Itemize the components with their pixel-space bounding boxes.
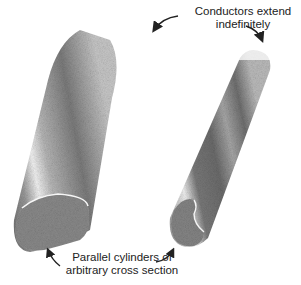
left-conductor — [14, 20, 130, 252]
annotation-bottom-line1: Parallel cylinders of — [52, 251, 192, 264]
conductors-diagram — [0, 0, 301, 285]
right-conductor — [170, 38, 280, 247]
annotation-parallel-cylinders: Parallel cylinders of arbitrary cross se… — [52, 251, 192, 277]
annotation-top-line1: Conductors extend — [184, 5, 301, 18]
annotation-top-line2: indefinitely — [184, 18, 301, 31]
annotation-conductors-extend: Conductors extend indefinitely — [184, 5, 301, 31]
arrow-to-left-top — [154, 16, 178, 30]
annotation-bottom-line2: arbitrary cross section — [52, 264, 192, 277]
